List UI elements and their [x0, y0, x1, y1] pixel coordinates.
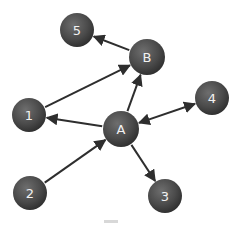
nodes-layer: 5B41A23 — [12, 13, 229, 213]
caption-fragment — [104, 220, 118, 223]
node-label: A — [117, 122, 126, 137]
node-b: B — [129, 39, 165, 75]
node-label: 1 — [25, 108, 33, 123]
node-4: 4 — [195, 81, 229, 115]
directed-graph-diagram: 5B41A23 — [0, 0, 238, 229]
edge-a-to-1-arrow — [47, 118, 102, 126]
node-3: 3 — [148, 179, 182, 213]
node-label: 2 — [26, 186, 34, 201]
edge-a-to-4-arrow — [139, 104, 195, 123]
node-label: 4 — [208, 91, 216, 106]
node-5: 5 — [60, 13, 94, 47]
edge-b-to-5-arrow — [94, 36, 129, 50]
edge-2-to-a-arrow — [45, 140, 106, 183]
edge-1-to-b-arrow — [45, 65, 130, 107]
node-label: 3 — [161, 189, 169, 204]
node-2: 2 — [13, 176, 47, 210]
node-label: B — [143, 50, 152, 65]
edges-layer — [45, 36, 195, 182]
node-label: 5 — [73, 23, 81, 38]
edge-a-to-b-arrow — [127, 75, 140, 111]
node-a: A — [103, 111, 139, 147]
edge-a-to-3-arrow — [131, 145, 155, 181]
node-1: 1 — [12, 98, 46, 132]
